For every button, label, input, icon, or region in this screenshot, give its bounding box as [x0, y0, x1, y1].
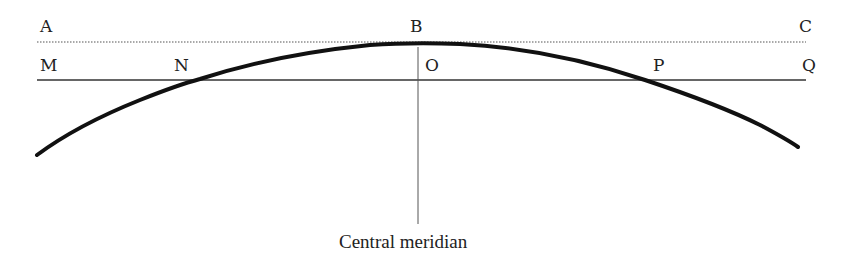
label-o: O: [425, 57, 439, 74]
label-m: M: [40, 57, 57, 74]
projection-diagram: A B C M N O P Q Central meridian: [0, 0, 844, 265]
label-a: A: [40, 18, 52, 35]
label-b: B: [410, 18, 423, 35]
central-meridian-caption: Central meridian: [339, 231, 467, 253]
label-p: P: [653, 57, 664, 74]
diagram-lines: [0, 0, 844, 265]
label-n: N: [174, 57, 189, 74]
label-c: C: [799, 18, 812, 35]
label-q: Q: [802, 57, 816, 74]
